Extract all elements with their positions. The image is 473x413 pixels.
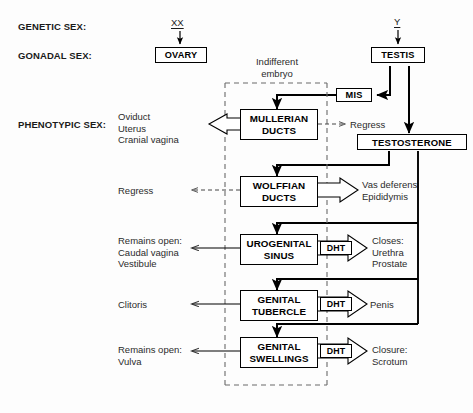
female-outcome-mullerian-2: Cranial vagina: [118, 134, 179, 145]
hormone-box-dht-swellings[interactable]: DHT: [320, 344, 352, 358]
female-outcome-mullerian-0: Oviduct: [118, 111, 150, 122]
male-outcome-urogenital: Closes: Urethra Prostate: [372, 235, 407, 270]
structure-box-urogenital-sinus[interactable]: UROGENITAL SINUS: [240, 234, 318, 265]
male-outcome-urogenital-2: Prostate: [372, 258, 407, 269]
female-outcome-mullerian-1: Uterus: [118, 123, 146, 134]
structure-box-mullerian-ducts-line1: MULLERIAN: [250, 113, 309, 124]
path-testosterone-to-urogenital: [277, 223, 418, 234]
structure-box-mullerian-ducts-line2: DUCTS: [262, 125, 296, 136]
row-label-genetic-sex: GENETIC SEX:: [18, 21, 86, 32]
path-testosterone-to-wolffian: [277, 151, 389, 176]
male-outcome-wolffian: Vas deferens Epididymis: [362, 179, 417, 202]
female-outcome-swellings-1: Vulva: [118, 356, 141, 367]
male-outcome-wolffian-1: Epididymis: [362, 191, 408, 202]
hollow-arrow-wolffian-male: [318, 178, 358, 202]
male-outcome-tubercle-0: Penis: [370, 299, 394, 311]
female-outcome-urogenital-1: Caudal vagina: [118, 247, 179, 258]
female-outcome-swellings: Remains open: Vulva: [118, 344, 182, 367]
female-outcome-urogenital-2: Vestibule: [118, 258, 157, 269]
hormone-box-dht-tubercle[interactable]: DHT: [320, 297, 352, 311]
female-outcome-swellings-0: Remains open:: [118, 344, 182, 355]
indifferent-embryo-caption: Indifferent embryo: [237, 56, 317, 79]
path-testosterone-to-swellings: [277, 324, 418, 337]
structure-box-wolffian-ducts-line1: WOLFFIAN: [253, 180, 306, 191]
female-outcome-tubercle-0: Clitoris: [118, 299, 147, 311]
structure-box-genital-swellings[interactable]: GENITAL SWELLINGS: [240, 337, 318, 368]
male-outcome-wolffian-0: Vas deferens: [362, 179, 417, 190]
hollow-arrow-mullerian-female: [209, 114, 240, 134]
male-outcome-urogenital-0: Closes:: [372, 235, 404, 246]
row-label-phenotypic-sex: PHENOTYPIC SEX:: [18, 119, 106, 130]
structure-box-genital-swellings-line1: GENITAL: [258, 341, 301, 352]
path-testis-to-mis: [377, 66, 390, 95]
structure-box-genital-swellings-line2: SWELLINGS: [249, 353, 308, 364]
path-testosterone-to-tubercle: [277, 279, 418, 290]
indifferent-embryo-line1: Indifferent: [256, 56, 298, 67]
hormone-box-testosterone[interactable]: TESTOSTERONE: [357, 134, 467, 150]
male-outcome-swellings-0: Closure:: [372, 344, 407, 355]
diagram-canvas: GENETIC SEX: GONADAL SEX: PHENOTYPIC SEX…: [0, 0, 473, 413]
male-outcome-urogenital-1: Urethra: [372, 247, 404, 258]
structure-box-genital-tubercle-line2: TUBERCLE: [252, 306, 306, 317]
hormone-box-mis[interactable]: MIS: [336, 88, 372, 102]
male-outcome-mullerian-0: Regress: [350, 119, 385, 131]
structure-box-urogenital-sinus-line2: SINUS: [264, 250, 294, 261]
structure-box-genital-tubercle[interactable]: GENITAL TUBERCLE: [240, 290, 318, 321]
structure-box-wolffian-ducts-line2: DUCTS: [262, 192, 296, 203]
gonad-box-ovary[interactable]: OVARY: [155, 47, 207, 63]
male-outcome-swellings: Closure: Scrotum: [372, 344, 407, 367]
female-outcome-mullerian: Oviduct Uterus Cranial vagina: [118, 111, 179, 146]
female-outcome-urogenital-0: Remains open:: [118, 235, 182, 246]
gonad-box-testis[interactable]: TESTIS: [371, 47, 425, 63]
chromosome-male-y: Y: [394, 16, 400, 27]
structure-box-wolffian-ducts[interactable]: WOLFFIAN DUCTS: [240, 176, 318, 207]
male-outcome-swellings-1: Scrotum: [372, 356, 407, 367]
indifferent-embryo-line2: embryo: [261, 68, 293, 79]
female-outcome-wolffian-0: Regress: [118, 185, 153, 197]
hormone-box-dht-urogenital[interactable]: DHT: [320, 241, 352, 255]
chromosome-female-xx: XX: [171, 17, 184, 28]
structure-box-genital-tubercle-line1: GENITAL: [258, 294, 301, 305]
row-label-gonadal-sex: GONADAL SEX:: [18, 50, 92, 61]
structure-box-mullerian-ducts[interactable]: MULLERIAN DUCTS: [240, 109, 318, 140]
structure-box-urogenital-sinus-line1: UROGENITAL: [246, 238, 311, 249]
female-outcome-urogenital: Remains open: Caudal vagina Vestibule: [118, 235, 182, 270]
